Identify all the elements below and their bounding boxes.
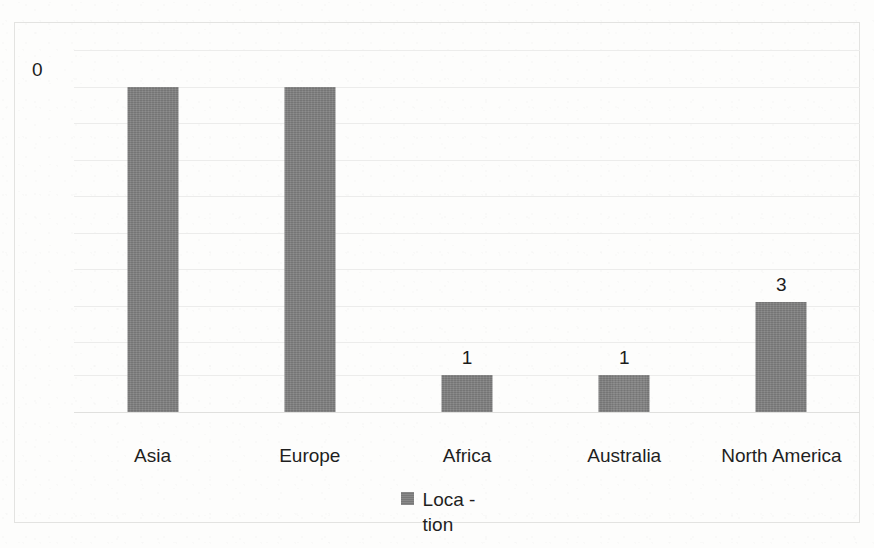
bar-north-america[interactable] (756, 302, 807, 412)
bar-europe[interactable] (284, 87, 335, 412)
bars-layer: 0 1 1 3 (74, 23, 860, 412)
legend-label-location: Loca - tion (423, 487, 476, 537)
bar-value-australia: 1 (619, 348, 630, 367)
bar-chart-figure: 0 1 1 3 Asia Europe Africa Austr (0, 0, 874, 548)
legend-label-line-1: Loca - (423, 487, 476, 512)
bar-value-africa: 1 (462, 348, 473, 367)
category-label-australia: Australia (546, 436, 703, 476)
category-label-asia: Asia (74, 436, 231, 476)
category-axis: Asia Europe Africa Australia North Ameri… (74, 436, 860, 476)
legend-entry-location[interactable]: Loca - tion (401, 487, 476, 537)
category-label-africa: Africa (388, 436, 545, 476)
bar-group-africa: 1 (388, 23, 545, 412)
bar-africa[interactable] (441, 375, 492, 412)
bar-group-north-america: 3 (703, 23, 860, 412)
bar-value-asia: 0 (32, 60, 43, 79)
square-swatch-icon (401, 492, 414, 505)
bar-asia[interactable] (127, 87, 178, 412)
x-axis-baseline (74, 412, 860, 413)
legend-label-line-2: tion (423, 512, 476, 537)
bar-group-australia: 1 (546, 23, 703, 412)
chart-plot-frame: 0 1 1 3 Asia Europe Africa Austr (14, 22, 860, 523)
category-label-north-america: North America (703, 436, 860, 476)
category-label-europe: Europe (231, 436, 388, 476)
bar-value-north-america: 3 (776, 275, 787, 294)
bar-group-asia: 0 (74, 23, 231, 412)
chart-legend: Loca - tion (15, 487, 861, 537)
bar-group-europe (231, 23, 388, 412)
bar-australia[interactable] (599, 375, 650, 412)
